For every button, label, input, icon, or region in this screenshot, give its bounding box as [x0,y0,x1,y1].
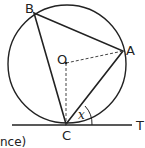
circle-theorem-diagram: B A O C T x nce) [0,0,145,148]
caption-fragment: nce) [0,135,26,148]
angle-arc-x [85,106,92,125]
label-t: T [135,118,144,133]
angle-label-x: x [78,108,85,122]
label-o: O [57,52,67,67]
label-c: C [62,128,71,143]
label-a: A [126,43,135,58]
label-b: B [25,1,34,16]
